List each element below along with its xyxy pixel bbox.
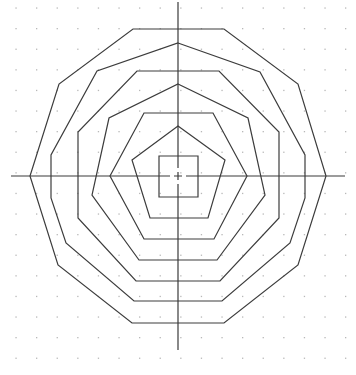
- grid-dot: [242, 316, 243, 317]
- grid-dot: [180, 90, 181, 91]
- grid-dot: [263, 152, 264, 153]
- grid-dot: [139, 131, 140, 132]
- diagram-canvas: [0, 0, 356, 375]
- grid-dot: [36, 296, 37, 297]
- dot-grid: [15, 7, 346, 359]
- grid-dot: [345, 296, 346, 297]
- grid-dot: [263, 131, 264, 132]
- grid-dot: [118, 49, 119, 50]
- crosshair-gap: [182, 175, 186, 178]
- grid-dot: [98, 193, 99, 194]
- grid-dot: [36, 90, 37, 91]
- grid-dot: [36, 213, 37, 214]
- grid-dot: [139, 255, 140, 256]
- grid-dot: [118, 213, 119, 214]
- grid-dot: [160, 90, 161, 91]
- grid-dot: [283, 213, 284, 214]
- grid-dot: [77, 337, 78, 338]
- grid-dot: [139, 296, 140, 297]
- grid-dot: [77, 49, 78, 50]
- grid-dot: [180, 131, 181, 132]
- grid-dot: [98, 28, 99, 29]
- grid-dot: [283, 90, 284, 91]
- grid-dot: [98, 152, 99, 153]
- grid-dot: [160, 358, 161, 359]
- grid-dot: [221, 234, 222, 235]
- crosshair-gap: [177, 180, 180, 184]
- grid-dot: [98, 49, 99, 50]
- grid-dot: [242, 193, 243, 194]
- grid-dot: [263, 358, 264, 359]
- grid-dot: [160, 131, 161, 132]
- grid-dot: [324, 316, 325, 317]
- grid-dot: [304, 255, 305, 256]
- grid-dot: [98, 131, 99, 132]
- grid-dot: [324, 110, 325, 111]
- grid-dot: [180, 110, 181, 111]
- grid-dot: [345, 7, 346, 8]
- grid-dot: [201, 152, 202, 153]
- grid-dot: [242, 152, 243, 153]
- grid-dot: [15, 234, 16, 235]
- grid-dot: [324, 234, 325, 235]
- grid-dot: [304, 358, 305, 359]
- grid-dot: [15, 255, 16, 256]
- grid-dot: [324, 213, 325, 214]
- grid-dot: [345, 172, 346, 173]
- grid-dot: [180, 337, 181, 338]
- grid-dot: [160, 337, 161, 338]
- grid-dot: [221, 90, 222, 91]
- grid-dot: [57, 296, 58, 297]
- grid-dot: [263, 110, 264, 111]
- grid-dot: [180, 152, 181, 153]
- grid-dot: [118, 172, 119, 173]
- grid-dot: [263, 69, 264, 70]
- grid-dot: [324, 152, 325, 153]
- grid-dot: [180, 7, 181, 8]
- grid-dot: [98, 213, 99, 214]
- grid-dot: [345, 213, 346, 214]
- grid-dot: [304, 69, 305, 70]
- grid-dot: [304, 296, 305, 297]
- grid-dot: [15, 296, 16, 297]
- grid-dot: [118, 255, 119, 256]
- grid-dot: [283, 358, 284, 359]
- grid-dot: [242, 234, 243, 235]
- grid-dot: [221, 296, 222, 297]
- grid-dot: [15, 7, 16, 8]
- grid-dot: [201, 131, 202, 132]
- grid-dot: [160, 7, 161, 8]
- grid-dot: [263, 213, 264, 214]
- grid-dot: [15, 49, 16, 50]
- grid-dot: [324, 7, 325, 8]
- grid-dot: [139, 337, 140, 338]
- crosshair-gap: [177, 168, 180, 172]
- grid-dot: [57, 131, 58, 132]
- grid-dot: [15, 337, 16, 338]
- grid-dot: [139, 193, 140, 194]
- grid-dot: [77, 234, 78, 235]
- grid-dot: [139, 110, 140, 111]
- grid-dot: [201, 110, 202, 111]
- grid-dot: [304, 131, 305, 132]
- grid-dot: [242, 69, 243, 70]
- grid-dot: [221, 337, 222, 338]
- grid-dot: [139, 90, 140, 91]
- grid-dot: [304, 316, 305, 317]
- grid-dot: [160, 172, 161, 173]
- grid-dot: [201, 275, 202, 276]
- grid-dot: [345, 234, 346, 235]
- grid-dot: [324, 69, 325, 70]
- grid-dot: [304, 337, 305, 338]
- grid-dot: [283, 28, 284, 29]
- grid-dot: [160, 193, 161, 194]
- grid-dot: [36, 131, 37, 132]
- grid-dot: [36, 337, 37, 338]
- grid-dot: [36, 7, 37, 8]
- grid-dot: [160, 275, 161, 276]
- grid-dot: [283, 193, 284, 194]
- grid-dot: [160, 316, 161, 317]
- grid-dot: [221, 49, 222, 50]
- grid-dot: [118, 28, 119, 29]
- grid-dot: [283, 255, 284, 256]
